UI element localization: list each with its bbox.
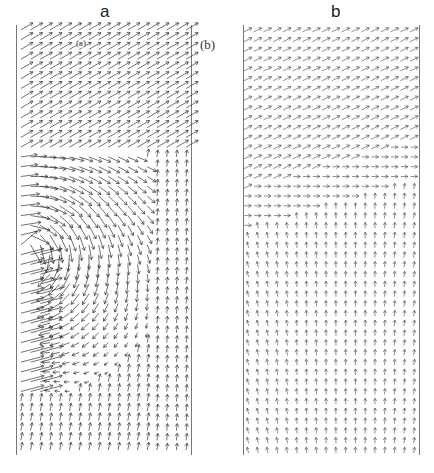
vector-field-b-plot bbox=[0, 0, 434, 473]
panel-a-inset-label: (a) bbox=[76, 39, 86, 48]
panel-b-vector-field bbox=[0, 0, 434, 473]
